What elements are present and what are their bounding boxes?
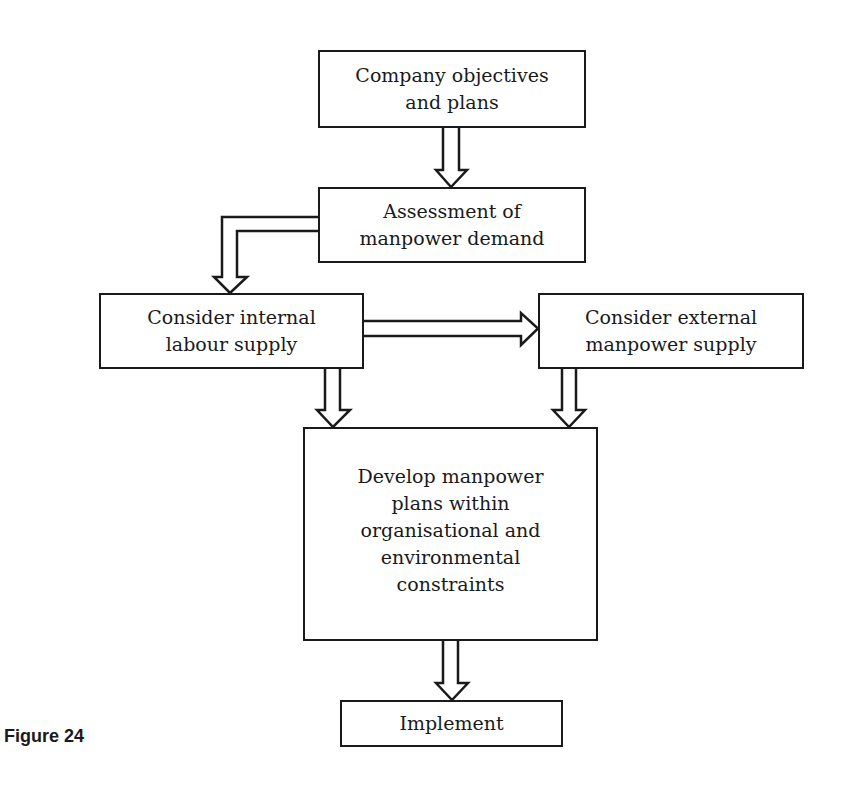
node-develop-manpower-plans: Develop manpower plans within organisati… <box>303 427 598 641</box>
node-label: Consider internal labour supply <box>147 304 316 358</box>
node-label: Company objectives and plans <box>355 62 548 116</box>
node-company-objectives: Company objectives and plans <box>318 50 586 128</box>
figure-caption: Figure 24 <box>4 726 84 747</box>
node-implement: Implement <box>340 700 563 747</box>
arrow-internal-to-develop <box>317 367 350 427</box>
arrow-external-to-develop <box>553 367 585 427</box>
arrow-develop-to-implement <box>436 639 468 700</box>
node-label: Implement <box>399 710 503 737</box>
arrow-objectives-to-demand <box>436 126 467 187</box>
node-label: Develop manpower plans within organisati… <box>358 463 544 598</box>
arrow-internal-to-external <box>362 313 538 345</box>
node-label: Assessment of manpower demand <box>360 198 545 252</box>
node-label: Consider external manpower supply <box>585 304 757 358</box>
node-internal-labour-supply: Consider internal labour supply <box>99 293 364 369</box>
arrow-demand-to-internal <box>214 217 319 293</box>
node-assessment-manpower-demand: Assessment of manpower demand <box>318 187 586 263</box>
node-external-manpower-supply: Consider external manpower supply <box>538 293 804 369</box>
